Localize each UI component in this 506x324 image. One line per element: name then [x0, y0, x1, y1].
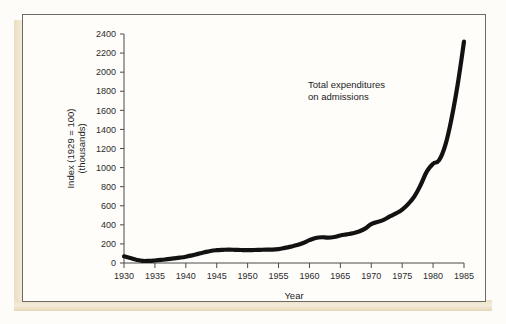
y-axis-ticks	[120, 34, 124, 263]
y-tick-label: 200	[101, 239, 116, 249]
chart-frame: 0200400600800100012001400160018002000220…	[22, 14, 486, 302]
series-annotation-line2: on admissions	[308, 91, 369, 102]
y-tick-label: 2000	[96, 67, 116, 77]
x-tick-label: 1970	[361, 271, 381, 281]
figure-page: 0200400600800100012001400160018002000220…	[0, 0, 506, 324]
y-tick-label: 1600	[96, 106, 116, 116]
y-tick-label: 1000	[96, 163, 116, 173]
y-axis-tick-labels: 0200400600800100012001400160018002000220…	[96, 29, 116, 268]
x-tick-label: 1960	[299, 271, 319, 281]
line-chart: 0200400600800100012001400160018002000220…	[23, 15, 485, 301]
y-tick-label: 600	[101, 201, 116, 211]
x-tick-label: 1980	[423, 271, 443, 281]
y-axis-title: Index (1929 = 100) (thousands)	[65, 108, 87, 188]
y-tick-label: 0	[111, 258, 116, 268]
x-axis-tick-labels: 1930193519401945195019551960196519701975…	[114, 271, 474, 281]
x-tick-label: 1940	[176, 271, 196, 281]
y-tick-label: 1800	[96, 86, 116, 96]
x-tick-label: 1935	[145, 271, 165, 281]
y-tick-label: 2200	[96, 48, 116, 58]
x-axis-ticks	[124, 263, 464, 268]
y-tick-label: 2400	[96, 29, 116, 39]
y-tick-label: 1400	[96, 125, 116, 135]
data-series-line	[124, 42, 464, 261]
x-tick-label: 1945	[207, 271, 227, 281]
x-tick-label: 1975	[392, 271, 412, 281]
x-tick-label: 1985	[454, 271, 474, 281]
y-tick-label: 1200	[96, 144, 116, 154]
x-tick-label: 1950	[238, 271, 258, 281]
y-axis-title-line2: (thousands)	[76, 123, 87, 173]
x-axis-title: Year	[284, 290, 303, 301]
y-tick-label: 800	[101, 182, 116, 192]
x-tick-label: 1955	[269, 271, 289, 281]
chart-axes	[124, 34, 464, 263]
x-tick-label: 1930	[114, 271, 134, 281]
y-tick-label: 400	[101, 220, 116, 230]
y-axis-title-line1: Index (1929 = 100)	[65, 108, 76, 188]
series-annotation-line1: Total expenditures	[308, 79, 385, 90]
x-tick-label: 1965	[330, 271, 350, 281]
